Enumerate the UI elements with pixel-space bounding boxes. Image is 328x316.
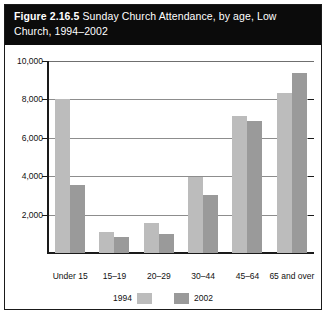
bar-group bbox=[137, 61, 181, 253]
x-axis-labels: Under 1515–1920–2930–4445–6465 and over bbox=[48, 271, 314, 285]
bars-layer bbox=[48, 61, 314, 253]
y-axis-tick-label: 10,000 bbox=[17, 56, 43, 66]
bar bbox=[203, 195, 218, 253]
y-axis-tick-label: 8,000 bbox=[22, 94, 43, 104]
x-axis-tick-label: 45–64 bbox=[236, 271, 260, 281]
chart-legend: 1994 2002 bbox=[5, 290, 321, 306]
bar bbox=[159, 234, 174, 253]
x-axis-tick-label: 30–44 bbox=[191, 271, 215, 281]
bar bbox=[55, 99, 70, 253]
legend-label-1994: 1994 bbox=[113, 293, 132, 303]
bar-group bbox=[270, 61, 314, 253]
bar-group bbox=[92, 61, 136, 253]
x-axis-tick-label: 15–19 bbox=[103, 271, 127, 281]
bar-group bbox=[48, 61, 92, 253]
bar-group bbox=[225, 61, 269, 253]
x-axis-tick-label: Under 15 bbox=[53, 271, 88, 281]
y-axis-tick-label: 4,000 bbox=[22, 171, 43, 181]
legend-swatch-2002 bbox=[174, 293, 189, 304]
y-axis-labels: 2,0004,0006,0008,00010,000 bbox=[5, 45, 43, 269]
figure-container: Figure 2.16.5 Sunday Church Attendance, … bbox=[4, 4, 322, 310]
y-axis-tick-label: 6,000 bbox=[22, 133, 43, 143]
bar bbox=[144, 223, 159, 253]
bar bbox=[277, 93, 292, 253]
bar bbox=[188, 177, 203, 253]
plot-area: 2,0004,0006,0008,00010,000 bbox=[5, 45, 321, 269]
bar bbox=[70, 185, 85, 253]
legend-label-2002: 2002 bbox=[194, 293, 213, 303]
bar bbox=[232, 116, 247, 253]
y-axis-tick-label: 2,000 bbox=[22, 210, 43, 220]
legend-swatch-1994 bbox=[137, 293, 152, 304]
bar bbox=[247, 121, 262, 253]
page-title: Figure 2.16.5 Sunday Church Attendance, … bbox=[14, 9, 312, 39]
figure-title-bar: Figure 2.16.5 Sunday Church Attendance, … bbox=[5, 5, 321, 45]
bar bbox=[114, 237, 129, 253]
bar bbox=[292, 73, 307, 253]
x-axis-tick-label: 20–29 bbox=[147, 271, 171, 281]
x-axis-tick-label: 65 and over bbox=[269, 271, 314, 281]
figure-number: Figure 2.16.5 bbox=[14, 10, 80, 22]
bar bbox=[99, 232, 114, 253]
bar-group bbox=[181, 61, 225, 253]
